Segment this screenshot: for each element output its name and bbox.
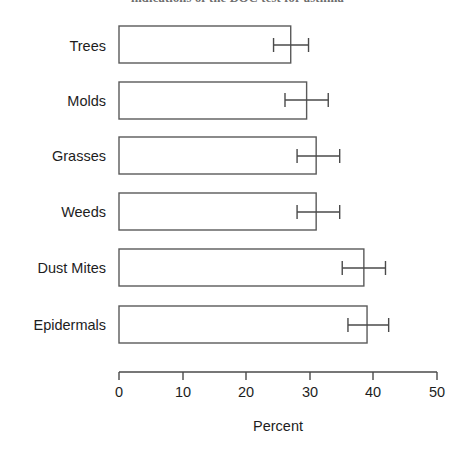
chart-plot-area: Trees Molds Grasses Weeds Dust Mites Epi… [0,0,475,458]
x-tick-labels: 0 10 20 30 40 50 [115,384,445,400]
category-label-dust-mites: Dust Mites [38,260,107,276]
x-tick-label-30: 30 [302,384,318,400]
bar-epidermals [119,306,367,343]
category-label-trees: Trees [69,38,106,54]
x-tick-label-20: 20 [238,384,254,400]
x-tick-label-0: 0 [115,384,123,400]
bar-trees [119,26,291,63]
x-tick-label-50: 50 [429,384,445,400]
category-labels: Trees Molds Grasses Weeds Dust Mites Epi… [33,38,106,333]
bar-dust-mites [119,249,364,286]
category-label-weeds: Weeds [61,204,106,220]
bars-group [119,26,367,343]
x-axis [119,372,437,380]
category-label-grasses: Grasses [52,148,106,164]
bar-molds [119,82,307,119]
bar-grasses [119,137,316,174]
x-tick-label-10: 10 [175,384,191,400]
bar-weeds [119,193,316,230]
x-tick-label-40: 40 [365,384,381,400]
category-label-epidermals: Epidermals [33,317,106,333]
category-label-molds: Molds [67,93,106,109]
x-axis-title: Percent [253,418,303,434]
bar-chart: indications of the DOC test for asthma T… [0,0,475,458]
